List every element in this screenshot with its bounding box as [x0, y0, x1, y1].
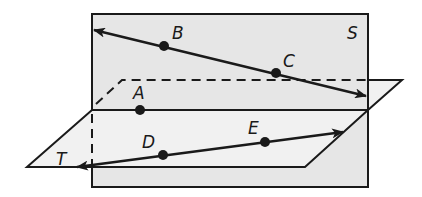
label-a: A	[132, 83, 145, 103]
point-d	[158, 150, 168, 160]
point-e	[260, 137, 270, 147]
label-d: D	[142, 132, 155, 152]
label-e: E	[248, 118, 259, 138]
label-b: B	[172, 23, 184, 43]
label-plane-s: S	[347, 23, 358, 43]
point-b	[159, 41, 169, 51]
label-plane-t: T	[56, 149, 68, 169]
point-c	[271, 68, 281, 78]
intersecting-planes-diagram: A B C D E S T	[0, 0, 422, 197]
label-c: C	[283, 51, 295, 71]
point-a	[135, 105, 145, 115]
